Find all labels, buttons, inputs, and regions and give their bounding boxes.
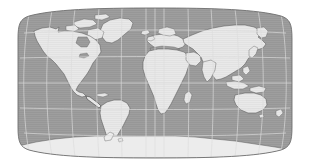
world-map-canvas[interactable]: Grayscale world map in a Robinson-style …	[0, 0, 310, 166]
world-map-figure: Grayscale world map in a Robinson-style …	[0, 0, 310, 166]
